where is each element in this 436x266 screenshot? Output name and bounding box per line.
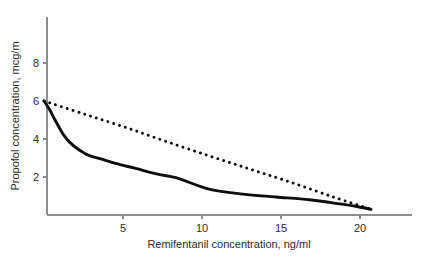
y-tick-label: 6 — [33, 95, 39, 107]
line-chart-canvas: 2468 5101520 Remifentanil concentration,… — [0, 0, 436, 266]
y-tick-label: 2 — [33, 171, 39, 183]
chart-background — [0, 0, 436, 266]
x-tick-label: 15 — [275, 222, 287, 234]
x-axis-title: Remifentanil concentration, ng/ml — [147, 238, 310, 250]
y-axis-title: Propofol concentration, mcg/m — [9, 41, 21, 190]
x-tick-label: 10 — [196, 222, 208, 234]
y-tick-label: 8 — [33, 57, 39, 69]
chart-figure: 2468 5101520 Remifentanil concentration,… — [0, 0, 436, 266]
x-tick-label: 5 — [120, 222, 126, 234]
x-tick-label: 20 — [354, 222, 366, 234]
y-tick-label: 4 — [33, 133, 39, 145]
